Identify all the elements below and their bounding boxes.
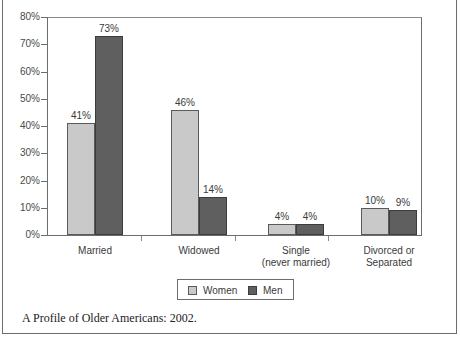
bar-women-3	[361, 208, 389, 235]
y-axis-tick-label-text: 0%	[2, 230, 40, 240]
bar-chart: 0%10%20%30%40%50%60%70%80% MarriedWidowe…	[0, 0, 460, 300]
y-axis-tick-label: 0%	[0, 230, 40, 240]
bar-men-2	[296, 224, 324, 235]
y-axis-tick-label: 70%	[0, 39, 40, 49]
y-axis-tick	[41, 17, 47, 18]
bar-value-label: 9%	[383, 197, 423, 208]
y-axis-tick-label-text: 60%	[2, 67, 40, 77]
y-axis-tick-label-text: 50%	[2, 94, 40, 104]
y-axis-tick-label: 30%	[0, 148, 40, 158]
y-axis-tick-label-text: 30%	[2, 148, 40, 158]
bar-women-0	[67, 123, 95, 235]
figure-page: 0%10%20%30%40%50%60%70%80% MarriedWidowe…	[0, 0, 460, 357]
y-axis-tick-label-text: 70%	[2, 39, 40, 49]
bar-value-label: 46%	[165, 97, 205, 108]
y-axis-tick-label: 50%	[0, 94, 40, 104]
legend-label: Women	[203, 285, 237, 296]
y-axis-tick	[41, 208, 47, 209]
x-axis-tick	[141, 236, 142, 241]
chart-legend: WomenMen	[177, 279, 294, 300]
legend-swatch-men	[248, 286, 257, 295]
bar-value-label: 73%	[89, 23, 129, 34]
y-axis-line	[47, 17, 48, 235]
y-axis-tick-label: 20%	[0, 176, 40, 186]
bar-value-label: 4%	[290, 211, 330, 222]
y-axis-tick	[41, 181, 47, 182]
y-axis-tick	[41, 99, 47, 100]
bar-men-3	[389, 210, 417, 235]
y-axis-tick	[41, 235, 47, 236]
y-axis-tick	[41, 44, 47, 45]
legend-swatch-women	[188, 286, 197, 295]
legend-item-women[interactable]: Women	[188, 284, 237, 297]
x-axis-tick	[235, 236, 236, 241]
x-axis-tick	[328, 236, 329, 241]
y-axis-tick-label-text: 10%	[2, 203, 40, 213]
y-axis-tick	[41, 72, 47, 73]
y-axis-tick	[41, 153, 47, 154]
legend-label: Men	[263, 285, 282, 296]
figure-caption: A Profile of Older Americans: 2002.	[22, 311, 197, 326]
y-axis-tick-label-text: 80%	[2, 12, 40, 22]
y-axis-tick-label: 80%	[0, 12, 40, 22]
bar-value-label: 14%	[193, 184, 233, 195]
bar-men-1	[199, 197, 227, 235]
x-axis-category-label: Separated	[319, 257, 459, 269]
x-axis-category-label: Divorced or	[319, 245, 459, 257]
y-axis-tick-label-text: 20%	[2, 176, 40, 186]
y-axis-tick	[41, 126, 47, 127]
y-axis-tick-label: 10%	[0, 203, 40, 213]
bar-men-0	[95, 36, 123, 235]
y-axis-tick-label: 60%	[0, 67, 40, 77]
bar-women-2	[268, 224, 296, 235]
y-axis-tick-label-text: 40%	[2, 121, 40, 131]
bar-women-1	[171, 110, 199, 235]
legend-item-men[interactable]: Men	[248, 284, 282, 297]
y-axis-tick-label: 40%	[0, 121, 40, 131]
